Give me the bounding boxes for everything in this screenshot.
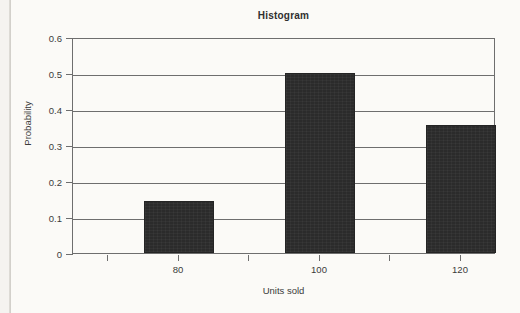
x-axis-title: Units sold [72, 285, 495, 296]
y-tick-mark [66, 182, 72, 183]
y-axis-line [72, 38, 73, 255]
y-tick-mark [66, 254, 72, 255]
y-tick-mark [66, 74, 72, 75]
chart-title: Histogram [72, 10, 495, 21]
y-tick-label: 0.1 [49, 213, 62, 224]
y-tick-mark [66, 146, 72, 147]
x-tick-mark [389, 255, 390, 261]
x-tick-label: 80 [148, 264, 208, 275]
bar-120 [426, 125, 496, 253]
x-tick-mark [460, 255, 461, 261]
gridline-0.4 [73, 111, 494, 112]
x-tick-mark [107, 255, 108, 261]
plot-area [72, 38, 495, 254]
x-tick-mark [248, 255, 249, 261]
y-tick-mark [66, 110, 72, 111]
page-edge-line [9, 0, 11, 313]
histogram-chart: Histogram Probability 00.10.20.30.40.50.… [0, 0, 520, 313]
y-axis-title: Probability [22, 84, 33, 164]
y-tick-label: 0.4 [49, 105, 62, 116]
x-tick-mark [319, 255, 320, 261]
bar-100 [285, 73, 355, 253]
page-edge-shadow [0, 0, 9, 313]
y-tick-mark [66, 218, 72, 219]
x-tick-label: 120 [430, 264, 490, 275]
y-tick-label: 0 [57, 249, 62, 260]
y-tick-label: 0.3 [49, 141, 62, 152]
gridline-0.5 [73, 75, 494, 76]
y-tick-label: 0.6 [49, 33, 62, 44]
x-tick-label: 100 [289, 264, 349, 275]
y-tick-mark [66, 38, 72, 39]
bar-80 [144, 201, 214, 253]
y-tick-label: 0.5 [49, 69, 62, 80]
x-tick-mark [178, 255, 179, 261]
y-tick-label: 0.2 [49, 177, 62, 188]
